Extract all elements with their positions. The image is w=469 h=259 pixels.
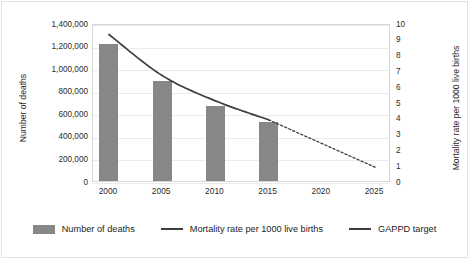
right-axis-tick-label: 2 [396, 146, 412, 155]
line-gappd-target [269, 120, 375, 167]
left-axis-tick-label: 1,200,000 [22, 42, 88, 51]
line-mortality-rate [109, 34, 269, 119]
right-axis-tick-label: 9 [396, 35, 412, 44]
legend-entry[interactable]: Number of deaths [33, 224, 135, 235]
left-axis-tick-label: 0 [22, 178, 88, 187]
legend-label: GAPPD target [378, 224, 436, 235]
left-axis-tick-labels: 0200,000400,000600,000800,0001,000,0001,… [22, 0, 88, 210]
plot-area [92, 24, 390, 182]
legend-bar-swatch-icon [33, 225, 55, 234]
legend-line-swatch-icon [349, 228, 371, 230]
legend-label: Number of deaths [62, 224, 135, 235]
x-axis-tick-labels: 200020052010201520202025 [92, 186, 390, 204]
left-axis-tick-label: 1,000,000 [22, 65, 88, 74]
right-axis-tick-label: 0 [396, 178, 412, 187]
right-axis-tick-label: 5 [396, 99, 412, 108]
chart-region: Number of deaths 0200,000400,000600,0008… [0, 0, 469, 210]
legend-entry[interactable]: GAPPD target [349, 224, 436, 235]
right-axis-tick-label: 3 [396, 130, 412, 139]
chart-figure: Number of deaths 0200,000400,000600,0008… [0, 0, 469, 259]
left-axis-tick-label: 200,000 [22, 155, 88, 164]
legend-line-swatch-icon [161, 228, 183, 230]
right-axis-tick-label: 8 [396, 51, 412, 60]
legend-label: Mortality rate per 1000 live births [190, 224, 323, 235]
right-axis-tick-label: 7 [396, 67, 412, 76]
x-axis-tick-label: 2015 [245, 186, 291, 196]
right-axis-tick-labels: 012345678910 [396, 0, 412, 210]
right-axis-tick-label: 6 [396, 83, 412, 92]
right-axis-tick-label: 10 [396, 20, 412, 29]
x-axis-tick-label: 2000 [85, 186, 131, 196]
x-axis-tick-label: 2025 [351, 186, 397, 196]
x-axis-tick-label: 2010 [191, 186, 237, 196]
left-axis-tick-label: 600,000 [22, 110, 88, 119]
left-axis-tick-label: 800,000 [22, 87, 88, 96]
x-axis-tick-label: 2005 [138, 186, 184, 196]
left-axis-tick-label: 400,000 [22, 132, 88, 141]
legend-entry[interactable]: Mortality rate per 1000 live births [161, 224, 323, 235]
line-series-layer [93, 25, 391, 183]
right-axis-tick-label: 1 [396, 162, 412, 171]
right-axis-tick-label: 4 [396, 114, 412, 123]
gridline [93, 183, 389, 184]
x-axis-tick-label: 2020 [298, 186, 344, 196]
left-axis-tick-label: 1,400,000 [22, 20, 88, 29]
chart-legend: Number of deathsMortality rate per 1000 … [0, 212, 469, 246]
right-axis-title: Mortality rate per 1000 live births [451, 23, 461, 193]
